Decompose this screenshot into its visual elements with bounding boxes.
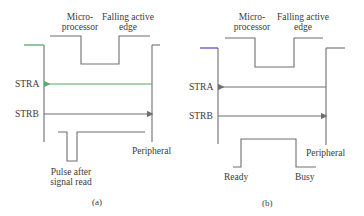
label-edge-line1: Falling active: [271, 12, 335, 22]
ready-busy-signal-b: [233, 139, 316, 167]
label-pulse-line2: signal read: [44, 177, 98, 187]
microprocessor-signal-a: [50, 36, 150, 64]
caption-b: (b): [262, 198, 273, 208]
label-strb-a: STRB: [15, 109, 39, 119]
microprocessor-signal-b: [225, 38, 323, 67]
label-pulse-a: Pulse after signal read: [44, 167, 98, 187]
caption-a: (a): [92, 197, 102, 207]
label-falling-edge-a: Falling active edge: [96, 12, 160, 32]
label-pulse-line1: Pulse after: [44, 167, 98, 177]
label-edge-line1: Falling active: [96, 12, 160, 22]
label-stra-b: STRA: [189, 82, 213, 92]
label-strb-b: STRB: [189, 111, 213, 121]
label-stra-a: STRA: [15, 79, 39, 89]
label-falling-edge-b: Falling active edge: [271, 12, 335, 32]
panel-a: [24, 36, 160, 161]
label-peripheral-b: Peripheral: [306, 148, 345, 158]
label-edge-line2: edge: [271, 22, 335, 32]
label-peripheral-a: Peripheral: [132, 146, 171, 156]
label-ready-b: Ready: [224, 172, 248, 182]
label-busy-b: Busy: [295, 172, 315, 182]
label-edge-line2: edge: [96, 22, 160, 32]
